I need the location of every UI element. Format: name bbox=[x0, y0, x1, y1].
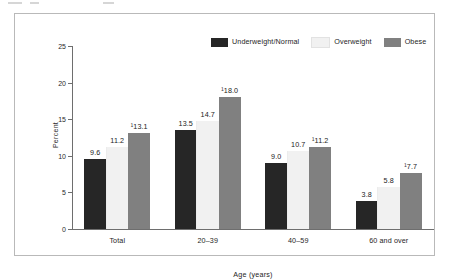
plot-area: 0510152025 9.611.2¹13.1Total13.514.7¹18.… bbox=[72, 46, 434, 230]
y-axis-tick-label: 15 bbox=[58, 116, 66, 123]
bar-value-label: 5.8 bbox=[384, 176, 394, 185]
bar-slot: 9.0 bbox=[265, 46, 287, 229]
y-axis-tick-mark bbox=[68, 192, 72, 193]
bar bbox=[400, 173, 422, 229]
y-axis-tick-label: 5 bbox=[62, 189, 66, 196]
bar-group: 9.611.2¹13.1Total bbox=[84, 46, 150, 229]
bar-value-label: ¹11.2 bbox=[312, 136, 328, 145]
bar-slot: 9.6 bbox=[84, 46, 106, 229]
x-axis-category-label: 20–39 bbox=[198, 236, 219, 245]
bar-slot: ¹13.1 bbox=[128, 46, 150, 229]
bar-value-label: 9.0 bbox=[271, 152, 281, 161]
bar-group: 9.010.7¹11.240–59 bbox=[265, 46, 331, 229]
bar-value-label: 11.2 bbox=[110, 136, 124, 145]
bar-slot: 13.5 bbox=[175, 46, 197, 229]
y-axis-tick-mark bbox=[68, 156, 72, 157]
bar bbox=[196, 121, 219, 229]
y-axis-tick-label: 25 bbox=[58, 43, 66, 50]
bar-slot: ¹18.0 bbox=[219, 46, 241, 229]
bar-value-label: ¹18.0 bbox=[221, 86, 238, 95]
y-axis-tick-mark bbox=[68, 46, 72, 47]
bar-value-label: ¹7.7 bbox=[404, 162, 417, 171]
y-axis-tick-label: 0 bbox=[62, 226, 66, 233]
y-axis-line bbox=[72, 46, 73, 230]
x-axis-category-label: 60 and over bbox=[369, 236, 408, 245]
bar-value-label: 9.6 bbox=[90, 148, 100, 157]
bar bbox=[309, 147, 331, 229]
bar-slot: ¹7.7 bbox=[400, 46, 422, 229]
bar-slot: 3.8 bbox=[356, 46, 378, 229]
bar-value-label: ¹13.1 bbox=[131, 122, 148, 131]
y-axis-tick-label: 20 bbox=[58, 79, 66, 86]
y-axis-tick-label: 10 bbox=[58, 152, 66, 159]
x-axis-title: Age (years) bbox=[72, 270, 434, 279]
y-axis-tick-mark bbox=[68, 119, 72, 120]
y-axis-tick-mark bbox=[68, 229, 72, 230]
bar bbox=[377, 187, 400, 229]
bar-value-label: 14.7 bbox=[201, 110, 215, 119]
chart-figure-frame: Underweight/Normal Overweight Obese Perc… bbox=[14, 13, 435, 256]
legend-label-overweight: Overweight bbox=[334, 38, 371, 45]
bar-slot: 14.7 bbox=[197, 46, 219, 229]
bar-group: 13.514.7¹18.020–39 bbox=[175, 46, 241, 229]
x-axis-line bbox=[72, 229, 434, 230]
bar-slot: ¹11.2 bbox=[309, 46, 331, 229]
bar bbox=[84, 159, 106, 229]
bar-slot: 11.2 bbox=[106, 46, 128, 229]
bar bbox=[106, 147, 129, 229]
bar bbox=[128, 133, 150, 229]
x-axis-category-label: 40–59 bbox=[288, 236, 309, 245]
bar bbox=[287, 151, 310, 229]
bar-value-label: 10.7 bbox=[291, 140, 305, 149]
x-axis-category-label: Total bbox=[109, 236, 125, 245]
bar-slot: 10.7 bbox=[287, 46, 309, 229]
bar bbox=[175, 130, 197, 229]
bar-value-label: 3.8 bbox=[362, 190, 372, 199]
bar-group: 3.85.8¹7.760 and over bbox=[356, 46, 422, 229]
bar-value-label: 13.5 bbox=[179, 119, 193, 128]
cut-off-caption-strip bbox=[0, 0, 450, 10]
y-axis-tick-mark bbox=[68, 83, 72, 84]
legend-label-obese: Obese bbox=[405, 38, 427, 45]
bar-slot: 5.8 bbox=[378, 46, 400, 229]
bar bbox=[265, 163, 287, 229]
bar bbox=[219, 97, 241, 229]
legend-label-underweight-normal: Underweight/Normal bbox=[232, 38, 299, 45]
y-axis-title: Percent bbox=[52, 121, 59, 147]
bar bbox=[356, 201, 378, 229]
